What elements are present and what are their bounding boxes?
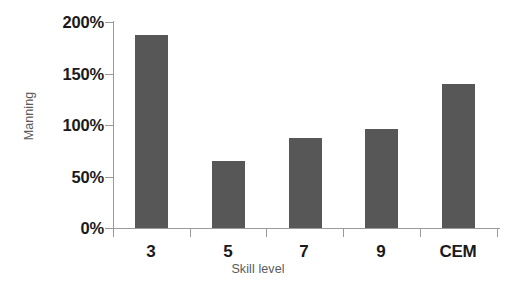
x-axis-tick: [113, 229, 114, 237]
x-tick-label: 9: [342, 243, 420, 260]
y-tick-label: 0%: [42, 220, 104, 237]
y-axis-tick: [105, 125, 113, 126]
bar[interactable]: [135, 35, 168, 228]
x-axis-tick: [266, 229, 267, 237]
bar[interactable]: [365, 129, 398, 228]
y-tick-label: 200%: [42, 14, 104, 31]
bar[interactable]: [212, 161, 245, 228]
bar-chart: Manning 200% 150% 100% 50% 0% 3 5 7 9 CE…: [0, 0, 516, 290]
y-tick-label: 150%: [42, 66, 104, 83]
y-tick-label: 50%: [42, 169, 104, 186]
x-axis-tick: [190, 229, 191, 237]
bar[interactable]: [442, 84, 475, 228]
y-axis-title-label: Manning: [22, 92, 36, 141]
x-axis-title: Skill level: [0, 262, 516, 276]
x-axis-tick: [343, 229, 344, 237]
x-tick-label: 5: [189, 243, 267, 260]
x-tick-label: 3: [112, 243, 190, 260]
bar[interactable]: [289, 138, 322, 228]
y-axis-tick-labels: 200% 150% 100% 50% 0%: [38, 0, 104, 290]
y-axis-tick: [105, 22, 113, 23]
y-axis-tick: [105, 228, 113, 229]
x-tick-label: 7: [265, 243, 343, 260]
plot-area: [113, 22, 505, 228]
x-axis-line: [105, 228, 500, 229]
y-axis-tick: [105, 177, 113, 178]
x-axis-title-label: Skill level: [231, 262, 284, 276]
y-tick-label: 100%: [42, 117, 104, 134]
y-axis-tick: [105, 74, 113, 75]
x-axis-tick: [497, 229, 498, 237]
x-tick-label: CEM: [419, 243, 497, 260]
x-axis-tick: [420, 229, 421, 237]
